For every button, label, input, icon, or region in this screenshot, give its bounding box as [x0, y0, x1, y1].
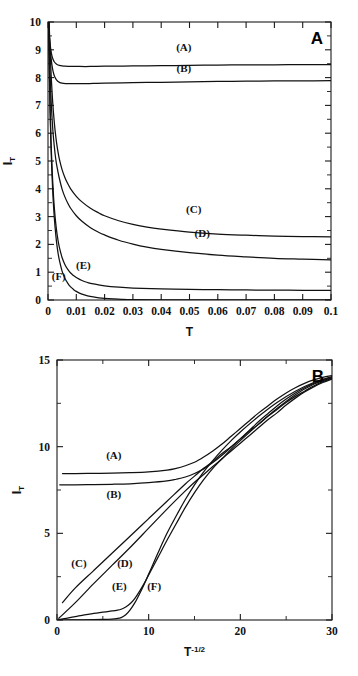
- x-axis-title: T: [186, 325, 194, 338]
- panel-a-svg: 00.010.020.030.040.050.060.070.080.090.1…: [0, 0, 358, 338]
- y-axis-title: IT: [9, 486, 26, 495]
- x-tick-label: 0.06: [208, 305, 228, 317]
- figure-container: 00.010.020.030.040.050.060.070.080.090.1…: [0, 0, 358, 676]
- curve-label-d: (D): [195, 227, 211, 240]
- y-tick-label: 0: [44, 614, 50, 626]
- curve-label-b: (B): [106, 488, 121, 501]
- y-tick-label: 3: [35, 211, 41, 223]
- x-tick-label: 0.07: [236, 305, 256, 317]
- data-curve-d: [59, 379, 332, 618]
- x-tick-label: 0: [45, 305, 51, 317]
- x-tick-label: 30: [326, 625, 338, 637]
- y-tick-label: 8: [35, 72, 41, 84]
- x-tick-label: 0: [54, 625, 60, 637]
- curve-label-e: (E): [112, 580, 127, 593]
- curve-label-c: (C): [71, 557, 87, 570]
- data-curve-d: [49, 22, 331, 260]
- curve-label-c: (C): [186, 203, 202, 216]
- y-tick-label: 10: [39, 441, 51, 453]
- curve-label-d: (D): [117, 557, 133, 570]
- x-tick-label: 0.01: [66, 305, 86, 317]
- y-tick-label: 15: [39, 354, 51, 366]
- panel-letter: B: [312, 367, 324, 386]
- x-tick-label: 0.03: [123, 305, 143, 317]
- panel-letter: A: [311, 29, 323, 48]
- x-axis-title: T-1/2: [184, 645, 206, 659]
- y-tick-label: 4: [35, 183, 41, 195]
- x-tick-label: 0.08: [264, 305, 284, 317]
- curve-label-a: (A): [176, 41, 192, 54]
- data-curve-f: [59, 376, 332, 620]
- y-tick-label: 6: [35, 127, 41, 139]
- x-tick-label: 0.05: [179, 305, 199, 317]
- curve-label-e: (E): [76, 259, 91, 272]
- x-tick-label: 20: [235, 625, 247, 637]
- data-curve-c: [63, 378, 333, 602]
- y-tick-label: 1: [35, 266, 41, 278]
- panel-b-svg: 0102030051015(A)(B)(C)(D)(E)(F)BITT-1/2: [0, 338, 358, 676]
- curve-label-a: (A): [106, 449, 122, 462]
- curves-group: [59, 376, 332, 620]
- x-tick-label: 0.04: [151, 305, 171, 317]
- y-tick-label: 5: [44, 527, 50, 539]
- curve-label-f: (F): [52, 270, 66, 283]
- y-tick-label: 5: [35, 155, 41, 167]
- y-axis-title: IT: [0, 157, 17, 166]
- y-tick-label: 2: [35, 238, 41, 250]
- data-curve-a: [63, 376, 333, 474]
- x-tick-label: 0.1: [324, 305, 339, 317]
- y-tick-label: 0: [35, 294, 41, 306]
- x-tick-label: 0.09: [293, 305, 313, 317]
- y-tick-label: 10: [30, 16, 42, 28]
- data-curve-e: [59, 377, 332, 619]
- x-tick-label: 10: [143, 625, 155, 637]
- chart-panel-a: 00.010.020.030.040.050.060.070.080.090.1…: [0, 0, 358, 338]
- svg-text:IT: IT: [9, 486, 26, 495]
- y-tick-label: 9: [35, 44, 41, 56]
- svg-text:IT: IT: [0, 157, 17, 166]
- chart-panel-b: 0102030051015(A)(B)(C)(D)(E)(F)BITT-1/2: [0, 338, 358, 676]
- curve-label-f: (F): [147, 580, 161, 593]
- x-tick-label: 0.02: [95, 305, 115, 317]
- curve-label-b: (B): [177, 62, 192, 75]
- y-tick-label: 7: [35, 99, 41, 111]
